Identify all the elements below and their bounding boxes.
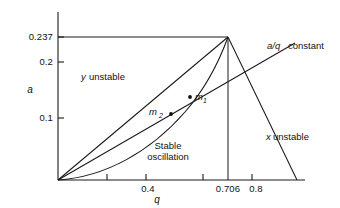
label-m1-symbol: m [195, 91, 203, 102]
y-axis-label: a [27, 84, 33, 95]
descending-boundary [228, 37, 297, 180]
stable-oscillation-line1: Stable [155, 140, 182, 151]
y-tick-label-0237: 0.237 [29, 31, 53, 42]
y-unstable-symbol: y [80, 71, 87, 82]
upper-stability-boundary [58, 37, 228, 180]
label-m1-subscript: 1 [203, 97, 207, 104]
stability-diagram-figure: 0.237 0.2 0.1 0.4 0.706 0.8 a q y unstab… [0, 0, 340, 208]
aq-constant-label: constant [288, 40, 324, 51]
label-m2-subscript: 2 [158, 112, 163, 119]
x-tick-label-08: 0.8 [249, 183, 263, 194]
y-unstable-label: unstable [89, 71, 125, 82]
x-tick-label-0706: 0.706 [216, 183, 240, 194]
x-unstable-symbol: x [265, 131, 272, 142]
point-m2 [169, 112, 173, 116]
stable-oscillation-line2: oscillation [147, 151, 189, 162]
x-unstable-label: unstable [273, 131, 309, 142]
label-m2-symbol: m [149, 106, 157, 117]
y-tick-label-01: 0.1 [39, 112, 53, 123]
point-m1 [188, 95, 192, 99]
x-tick-label-04: 0.4 [141, 183, 155, 194]
y-tick-label-02: 0.2 [39, 56, 53, 67]
x-axis-label: q [154, 194, 160, 205]
aq-constant-symbol: a/q [267, 40, 281, 51]
plot-canvas: 0.237 0.2 0.1 0.4 0.706 0.8 a q y unstab… [0, 0, 340, 208]
